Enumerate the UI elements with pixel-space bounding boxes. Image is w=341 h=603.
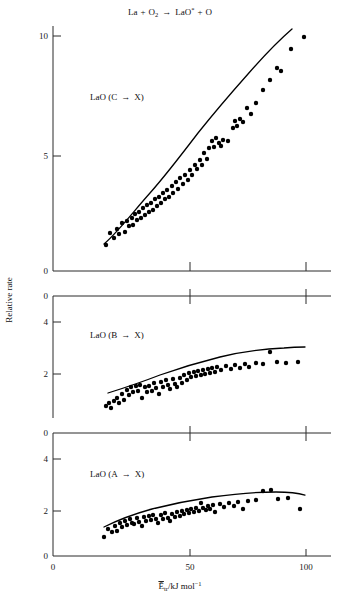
title-reactant-a: La	[128, 7, 138, 17]
middle-data-points	[104, 350, 300, 410]
xtick-label-100: 100	[299, 562, 313, 572]
top-ytick-label-0: 0	[44, 266, 49, 276]
middle-ytick-label-2: 2	[44, 369, 49, 379]
panel-middle: 0 4 2 LaO (B→X)	[44, 289, 332, 418]
figure-title: La+O2→LaO*+O	[128, 6, 213, 18]
y-axis-title: Relative rate	[4, 277, 14, 323]
middle-ytick-label-4: 4	[44, 317, 49, 327]
middle-ytick-label-0: 0	[44, 291, 49, 301]
xtick-label-50: 50	[186, 562, 196, 572]
bottom-ytick-label-0-top: 0	[44, 428, 49, 438]
bottom-ytick-label-4: 4	[44, 454, 49, 464]
top-data-points	[104, 35, 306, 247]
bottom-data-points	[102, 488, 302, 539]
panel-top: 10 5 0 LaO (C→X)	[39, 26, 331, 276]
xtick-label-0: 0	[51, 562, 56, 572]
top-ytick-label-10: 10	[39, 31, 49, 41]
bottom-ytick-label-2: 2	[44, 506, 49, 516]
top-ytick-label-5: 5	[44, 151, 49, 161]
figure-container: La+O2→LaO*+O Relative rate 10 5 0 LaO (C…	[0, 0, 341, 603]
panel-label-bottom: LaO (A→X)	[90, 469, 144, 479]
panel-bottom: 0 4 2 0 0 50 100 LaO (A→X)	[44, 426, 332, 572]
panel-label-middle: LaO (B→X)	[90, 330, 144, 340]
top-fit-curve	[104, 29, 292, 244]
x-axis-title: Ētr/kJ mol−1	[158, 580, 201, 592]
chart-svg: La+O2→LaO*+O Relative rate 10 5 0 LaO (C…	[0, 0, 341, 603]
bottom-ytick-label-0: 0	[44, 551, 49, 561]
panel-label-top: LaO (C→X)	[90, 92, 144, 102]
